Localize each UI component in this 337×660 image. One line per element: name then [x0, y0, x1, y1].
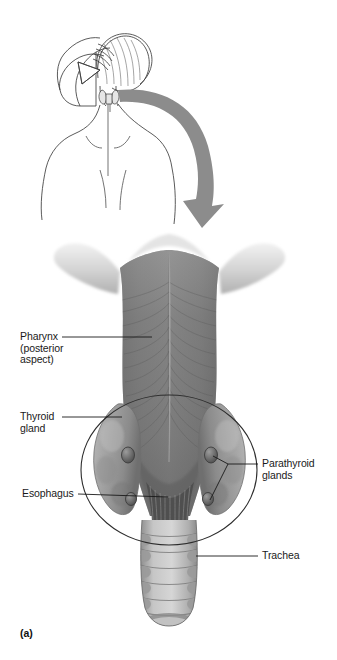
- figure-caption: (a): [20, 627, 33, 639]
- anatomy-figure: Pharynx (posterior aspect) Thyroid gland…: [0, 0, 337, 660]
- label-trachea: Trachea: [262, 550, 299, 562]
- label-esophagus: Esophagus: [22, 488, 74, 500]
- label-thyroid-gland: Thyroid gland: [20, 411, 54, 434]
- label-pharynx: Pharynx (posterior aspect): [20, 331, 63, 366]
- label-parathyroid-glands: Parathyroid glands: [262, 458, 315, 481]
